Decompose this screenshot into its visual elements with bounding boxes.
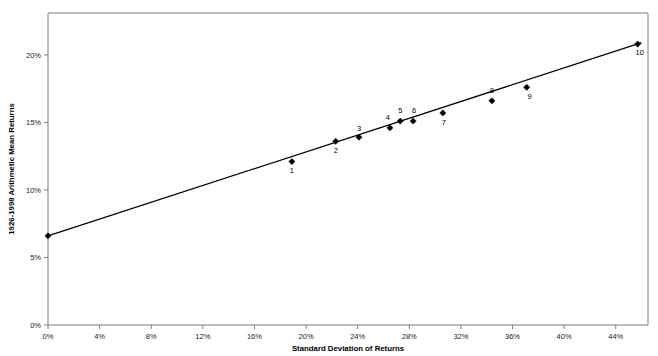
- data-point-marker: [440, 110, 446, 116]
- x-tick-label: 40%: [557, 332, 572, 341]
- data-point-marker: [410, 118, 416, 124]
- data-point-label: 6: [412, 106, 416, 115]
- data-point-marker: [635, 41, 641, 47]
- x-tick-label: 24%: [350, 332, 365, 341]
- y-axis-title: 1926-1998 Arithmetic Mean Returns: [7, 103, 16, 235]
- data-point-marker: [289, 158, 295, 164]
- x-tick-label: 4%: [94, 332, 105, 341]
- x-tick-label: 0%: [43, 332, 54, 341]
- x-axis: 0%4%8%12%16%20%24%28%32%36%40%44%: [43, 325, 624, 341]
- chart-canvas: 0%5%10%15%20% 0%4%8%12%16%20%24%28%32%36…: [0, 0, 658, 356]
- y-tick-label: 0%: [30, 321, 41, 330]
- x-tick-label: 32%: [453, 332, 468, 341]
- data-point-label: 10: [636, 48, 644, 57]
- x-tick-label: 44%: [608, 332, 623, 341]
- x-tick-label: 8%: [146, 332, 157, 341]
- data-point-label: 2: [334, 146, 338, 155]
- y-tick-label: 20%: [26, 51, 41, 60]
- data-point-label: 8: [490, 86, 494, 95]
- y-intercept-marker: [45, 233, 51, 239]
- trend-line: [48, 43, 642, 236]
- data-point-label: 7: [442, 118, 446, 127]
- data-point-label: 1: [290, 166, 294, 175]
- regression-line: [48, 43, 642, 236]
- scatter-chart: 0%5%10%15%20% 0%4%8%12%16%20%24%28%32%36…: [0, 0, 658, 356]
- y-tick-label: 5%: [30, 253, 41, 262]
- x-tick-label: 36%: [505, 332, 520, 341]
- x-tick-label: 28%: [402, 332, 417, 341]
- y-tick-label: 15%: [26, 118, 41, 127]
- x-tick-label: 20%: [299, 332, 314, 341]
- plot-border: [48, 13, 648, 325]
- x-axis-title: Standard Deviation of Returns: [292, 344, 405, 353]
- data-point-marker: [524, 84, 530, 90]
- data-point-label: 9: [528, 92, 532, 101]
- plot-frame: [48, 13, 648, 325]
- data-point-label: 3: [357, 124, 361, 133]
- y-tick-label: 10%: [26, 186, 41, 195]
- data-point-marker: [397, 118, 403, 124]
- y-axis: 0%5%10%15%20%: [26, 51, 48, 330]
- x-tick-label: 16%: [247, 332, 262, 341]
- data-point-label: 4: [386, 113, 390, 122]
- data-point-marker: [489, 98, 495, 104]
- x-tick-label: 12%: [195, 332, 210, 341]
- data-point-label: 5: [398, 106, 402, 115]
